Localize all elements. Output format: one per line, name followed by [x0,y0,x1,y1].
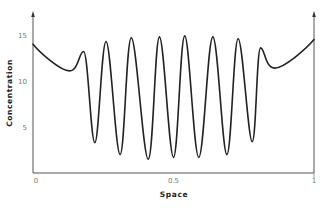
x-tick-label: 0 [34,177,38,185]
y-axis-right-arrow-icon [312,11,316,17]
x-tick-label: 0.5 [168,177,179,185]
y-tick-label: 15 [18,32,27,40]
concentration-chart: 51015 00.51 Concentration Space [0,0,328,208]
x-axis-label: Space [160,190,188,199]
y-axis-left-arrow-icon [31,11,35,17]
x-tick-label: 1 [312,177,316,185]
x-tick-labels: 00.51 [34,177,316,185]
y-tick-labels: 51015 [18,32,27,132]
y-tick-label: 5 [23,124,27,132]
concentration-curve [33,36,314,159]
y-tick-label: 10 [18,78,27,86]
y-axis-label: Concentration [5,59,14,127]
plot-area [31,11,316,178]
